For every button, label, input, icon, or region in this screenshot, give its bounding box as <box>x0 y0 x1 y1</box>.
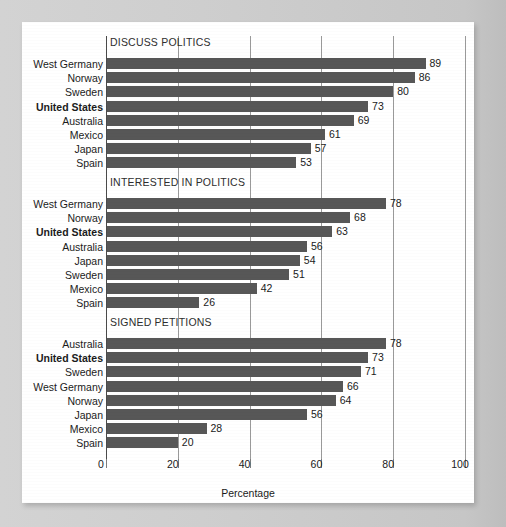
bar-value-label: 69 <box>358 114 370 127</box>
x-axis-title: Percentage <box>22 487 474 499</box>
bar-value-label: 73 <box>372 351 384 364</box>
bar[interactable] <box>107 129 325 140</box>
bar-row[interactable]: Norway64 <box>22 394 474 408</box>
bar-value-label: 89 <box>430 57 442 70</box>
bar[interactable] <box>107 72 415 83</box>
bar-value-label: 28 <box>211 422 223 435</box>
category-label: Australia <box>0 240 103 254</box>
bar[interactable] <box>107 241 307 252</box>
bar-row[interactable]: West Germany89 <box>22 57 474 71</box>
bar-value-label: 71 <box>365 365 377 378</box>
bar-value-label: 73 <box>372 100 384 113</box>
bar-value-label: 61 <box>329 128 341 141</box>
category-label: Mexico <box>0 422 103 436</box>
bar[interactable] <box>107 157 296 168</box>
bar-value-label: 26 <box>203 296 215 309</box>
bar-value-label: 86 <box>419 71 431 84</box>
bar-row[interactable]: West Germany78 <box>22 197 474 211</box>
bar-row[interactable]: Australia56 <box>22 240 474 254</box>
bar-value-label: 57 <box>315 142 327 155</box>
bar-row[interactable]: United States73 <box>22 100 474 114</box>
bar[interactable] <box>107 423 207 434</box>
bar[interactable] <box>107 381 343 392</box>
bar[interactable] <box>107 255 300 266</box>
bar[interactable] <box>107 437 178 448</box>
x-tick-label-100: 100 <box>451 458 469 470</box>
category-label: Spain <box>0 296 103 310</box>
bar-value-label: 54 <box>304 254 316 267</box>
category-label: Australia <box>0 337 103 351</box>
bar-row[interactable]: Sweden80 <box>22 85 474 99</box>
bar[interactable] <box>107 115 354 126</box>
bar-value-label: 56 <box>311 408 323 421</box>
panel-title-2: INTERESTED IN POLITICS <box>110 176 245 188</box>
bar-value-label: 51 <box>293 268 305 281</box>
bar[interactable] <box>107 269 289 280</box>
bar[interactable] <box>107 297 199 308</box>
bar-row[interactable]: Spain20 <box>22 436 474 450</box>
chart-card: DISCUSS POLITICSWest Germany89Norway86Sw… <box>22 22 474 503</box>
category-label: Japan <box>0 254 103 268</box>
bar-row[interactable]: Spain26 <box>22 296 474 310</box>
bar-row[interactable]: Sweden71 <box>22 365 474 379</box>
bar-row[interactable]: Japan54 <box>22 254 474 268</box>
bar[interactable] <box>107 338 386 349</box>
bar-row[interactable]: Sweden51 <box>22 268 474 282</box>
category-label: West Germany <box>0 197 103 211</box>
grouped-bar-chart: DISCUSS POLITICSWest Germany89Norway86Sw… <box>22 22 474 503</box>
category-label: West Germany <box>0 380 103 394</box>
bar-value-label: 78 <box>390 197 402 210</box>
category-label: United States <box>0 351 103 365</box>
category-label: Australia <box>0 114 103 128</box>
bar-value-label: 68 <box>354 211 366 224</box>
bar[interactable] <box>107 58 426 69</box>
category-label: Spain <box>0 436 103 450</box>
bar[interactable] <box>107 86 393 97</box>
bar-row[interactable]: Australia78 <box>22 337 474 351</box>
bar-row[interactable]: Mexico61 <box>22 128 474 142</box>
bar-row[interactable]: Japan57 <box>22 142 474 156</box>
x-tick-label-0: 0 <box>98 458 104 470</box>
bar[interactable] <box>107 283 257 294</box>
category-label: Mexico <box>0 282 103 296</box>
bar-row[interactable]: Japan56 <box>22 408 474 422</box>
bar[interactable] <box>107 366 361 377</box>
category-label: Mexico <box>0 128 103 142</box>
bar[interactable] <box>107 226 332 237</box>
category-label: United States <box>0 225 103 239</box>
bar[interactable] <box>107 395 336 406</box>
bar[interactable] <box>107 101 368 112</box>
bar-row[interactable]: West Germany66 <box>22 380 474 394</box>
category-label: Sweden <box>0 268 103 282</box>
category-label: Japan <box>0 408 103 422</box>
bar-row[interactable]: Spain53 <box>22 156 474 170</box>
bar-row[interactable]: Norway86 <box>22 71 474 85</box>
bar[interactable] <box>107 198 386 209</box>
bar-row[interactable]: Mexico28 <box>22 422 474 436</box>
x-tick-label-20: 20 <box>167 458 179 470</box>
category-label: Norway <box>0 71 103 85</box>
bar-value-label: 78 <box>390 337 402 350</box>
category-label: Spain <box>0 156 103 170</box>
bar-row[interactable]: Mexico42 <box>22 282 474 296</box>
category-label: West Germany <box>0 57 103 71</box>
bar-value-label: 64 <box>340 394 352 407</box>
bar-value-label: 20 <box>182 436 194 449</box>
bar-value-label: 80 <box>397 85 409 98</box>
bar-value-label: 63 <box>336 225 348 238</box>
category-label: Sweden <box>0 85 103 99</box>
x-tick-mark-0 <box>106 459 107 468</box>
bar[interactable] <box>107 352 368 363</box>
bar-row[interactable]: United States63 <box>22 225 474 239</box>
bar-row[interactable]: Norway68 <box>22 211 474 225</box>
x-tick-label-40: 40 <box>239 458 251 470</box>
bar-row[interactable]: Australia69 <box>22 114 474 128</box>
bar-row[interactable]: United States73 <box>22 351 474 365</box>
category-label: Sweden <box>0 365 103 379</box>
bar-value-label: 66 <box>347 380 359 393</box>
bar[interactable] <box>107 409 307 420</box>
bar[interactable] <box>107 143 311 154</box>
bar[interactable] <box>107 212 350 223</box>
category-label: Norway <box>0 394 103 408</box>
x-tick-label-80: 80 <box>382 458 394 470</box>
